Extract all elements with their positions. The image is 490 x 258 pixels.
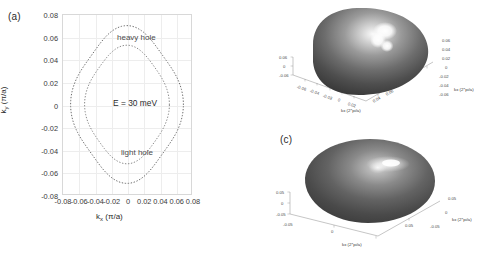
x-axis-title: kx (π/a) <box>96 212 123 222</box>
y-axis-title-subscript: y <box>3 106 9 109</box>
energy-annotation: E = 30 meV <box>113 98 157 108</box>
panel-c-left-tick: 0 <box>281 201 283 206</box>
panel-b-heavy-hole-surface: (b) <box>245 0 490 126</box>
y-axis-title-unit: (π/a) <box>0 87 8 105</box>
surface-highlight-core <box>382 160 400 167</box>
figure-root: (a) 0.08 0.06 0.04 0.02 0 <box>0 0 490 258</box>
x-tick-label: 0 <box>126 197 130 206</box>
x-tick-label: -0.08 <box>55 197 72 206</box>
panel-c-surface-plot: 0.05 0 -0.05 -0.05 0 0.05 0.05 0 -0.05 k… <box>245 126 490 258</box>
panel-c-bottom-tick: 0.05 <box>405 223 413 228</box>
heavy-hole-label: heavy hole <box>117 33 156 42</box>
y-axis-title-symbol: k <box>0 109 8 113</box>
panel-c-bottom-tick: 0 <box>331 229 333 234</box>
panel-b-y-axis-title: kx (2*pi/a) <box>454 87 474 92</box>
y-tick-label: 0.08 <box>0 11 58 20</box>
x-tick-label: 0.06 <box>170 197 184 206</box>
x-tick-label: -0.02 <box>103 197 120 206</box>
panel-c-right-tick: 0.05 <box>448 196 456 201</box>
surface-highlight <box>381 40 394 52</box>
y-axis-title: ky (π/a) <box>0 87 9 114</box>
panel-b-surface-plot: -0.06 -0.04 -0.02 0 0.02 0.04 0.06 0.06 … <box>245 0 490 126</box>
panel-b-right-tick: 0.04 <box>442 47 450 52</box>
panel-b-left-tick: 0 <box>283 64 285 69</box>
panel-c-left-tick: 0.05 <box>276 190 284 195</box>
light-hole-surface-body <box>305 139 435 223</box>
light-hole-label: light hole <box>121 148 153 157</box>
panel-c-right-tick: -0.05 <box>430 224 440 229</box>
panel-b-right-tick: 0.06 <box>442 38 450 43</box>
panel-c-y-axis-title: kx (2*pi/a) <box>452 217 472 222</box>
y-tick-label: -0.04 <box>0 146 58 155</box>
y-tick-label: -0.06 <box>0 169 58 178</box>
panel-c-left-tick: -0.05 <box>276 212 286 217</box>
x-tick-label: 0.08 <box>186 197 200 206</box>
y-tick-label: -0.08 <box>0 192 58 201</box>
panel-b-x-axis-title: kx (2*pi/a) <box>341 108 361 113</box>
panel-b-right-tick: -0.06 <box>439 92 449 97</box>
panel-a-contour-plot: (a) 0.08 0.06 0.04 0.02 0 <box>0 0 245 258</box>
panel-b-left-tick: -0.06 <box>279 73 289 78</box>
x-tick-label: -0.04 <box>87 197 104 206</box>
x-axis-title-subscript: x <box>100 216 103 222</box>
x-tick-label: 0.04 <box>153 197 167 206</box>
panel-c-left-tick: -0.05 <box>283 222 293 227</box>
panel-b-left-tick: 0.06 <box>279 55 287 60</box>
y-tick-label: 0.04 <box>0 56 58 65</box>
panel-b-right-tick: 0.02 <box>442 56 450 61</box>
panel-b-right-tick: 0 <box>445 65 447 70</box>
y-tick-label: 0.06 <box>0 33 58 42</box>
x-tick-label: -0.06 <box>71 197 88 206</box>
panel-b-right-tick: -0.04 <box>439 83 449 88</box>
panel-b-right-tick: -0.02 <box>439 74 449 79</box>
panel-c-x-axis-title: kx (2*pi/a) <box>342 242 362 247</box>
x-axis-title-unit: (π/a) <box>105 212 123 221</box>
panel-c-right-tick: 0 <box>445 210 447 215</box>
heavy-hole-surface-body <box>313 8 428 95</box>
y-tick-label: -0.02 <box>0 124 58 133</box>
panel-c-light-hole-surface: (c) <box>245 126 490 258</box>
panel-b-svg <box>245 0 490 126</box>
x-tick-label: 0.02 <box>137 197 151 206</box>
